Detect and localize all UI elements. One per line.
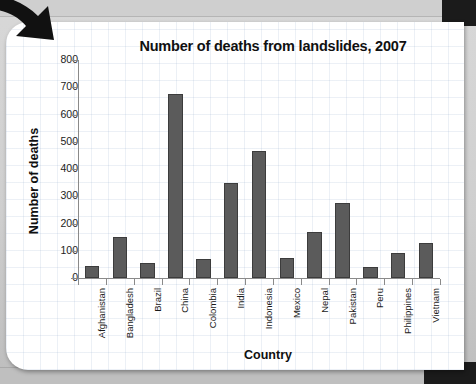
x-tick-mark xyxy=(245,279,246,285)
y-tick-mark xyxy=(71,278,78,279)
y-tick-mark xyxy=(71,169,78,170)
y-tick-label: 700 xyxy=(42,80,78,92)
y-tick-label: 800 xyxy=(42,53,78,65)
y-axis-line xyxy=(78,60,79,279)
x-category-label: Afghanistan xyxy=(96,288,107,338)
bar xyxy=(363,267,377,278)
y-tick-label: 600 xyxy=(42,108,78,120)
bar xyxy=(335,203,349,278)
x-tick-mark xyxy=(273,279,274,285)
x-category-label: Colombia xyxy=(207,288,218,328)
y-axis-label: Number of deaths xyxy=(27,106,41,256)
y-tick-mark xyxy=(71,196,78,197)
y-tick-label: 200 xyxy=(42,217,78,229)
y-tick-mark xyxy=(71,251,78,252)
y-tick-label: 300 xyxy=(42,189,78,201)
x-tick-mark xyxy=(356,279,357,285)
bar xyxy=(307,232,321,278)
x-tick-mark xyxy=(440,279,441,285)
x-category-label: Philippines xyxy=(402,288,413,334)
slide-top-bar xyxy=(0,0,476,17)
bar xyxy=(252,151,266,278)
x-category-label: Bangladesh xyxy=(124,288,135,338)
bar xyxy=(280,258,294,278)
x-tick-mark xyxy=(384,279,385,285)
y-tick-label: 500 xyxy=(42,135,78,147)
y-tick-mark xyxy=(71,142,78,143)
x-category-label: Pakistan xyxy=(347,288,358,324)
x-category-label: Indonesia xyxy=(263,288,274,329)
bar xyxy=(140,263,154,278)
x-tick-mark xyxy=(78,279,79,285)
slide-background: Number of deaths from landslides, 2007 N… xyxy=(0,0,476,384)
x-category-label: Brazil xyxy=(152,288,163,312)
bar xyxy=(113,237,127,278)
bar xyxy=(391,253,405,278)
x-category-label: Peru xyxy=(374,288,385,308)
x-category-label: China xyxy=(179,288,190,313)
x-axis-label: Country xyxy=(78,348,458,362)
x-axis-line xyxy=(78,278,440,279)
x-tick-mark xyxy=(134,279,135,285)
x-tick-mark xyxy=(106,279,107,285)
x-tick-mark xyxy=(301,279,302,285)
bar xyxy=(224,183,238,278)
y-tick-mark xyxy=(71,87,78,88)
bar xyxy=(85,266,99,278)
x-tick-mark xyxy=(329,279,330,285)
bar-chart: Number of deaths from landslides, 2007 N… xyxy=(6,22,464,370)
y-tick-mark xyxy=(71,224,78,225)
x-category-label: Vietnam xyxy=(430,288,441,323)
bar xyxy=(419,243,433,278)
x-tick-mark xyxy=(162,279,163,285)
bar xyxy=(168,94,182,278)
x-category-label: Nepal xyxy=(319,288,330,313)
y-tick-label: 100 xyxy=(42,244,78,256)
x-category-label: India xyxy=(235,288,246,309)
x-category-label: Mexico xyxy=(291,288,302,318)
x-tick-mark xyxy=(189,279,190,285)
x-tick-mark xyxy=(412,279,413,285)
chart-card: Number of deaths from landslides, 2007 N… xyxy=(6,22,464,370)
y-tick-label: 0 xyxy=(42,271,78,283)
y-tick-mark xyxy=(71,115,78,116)
y-tick-label: 400 xyxy=(42,162,78,174)
chart-title: Number of deaths from landslides, 2007 xyxy=(84,38,462,54)
x-tick-mark xyxy=(217,279,218,285)
y-tick-mark xyxy=(71,60,78,61)
bar xyxy=(196,259,210,278)
